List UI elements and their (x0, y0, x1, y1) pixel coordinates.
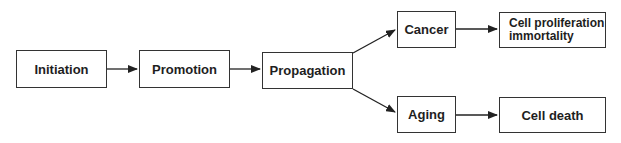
node-label: Propagation (270, 63, 346, 78)
node-cancer: Cancer (397, 11, 456, 48)
node-promotion: Promotion (139, 50, 230, 88)
node-cell-proliferation: Cell proliferation immortality (499, 12, 606, 48)
node-initiation: Initiation (16, 50, 107, 88)
node-propagation: Propagation (262, 52, 353, 89)
arrow-propagation-to-aging (353, 89, 395, 112)
node-aging: Aging (397, 96, 456, 133)
node-label: Cell proliferation immortality (509, 17, 604, 43)
node-label: Cell death (521, 108, 583, 123)
node-label: Cancer (404, 22, 448, 37)
node-label: Promotion (152, 62, 217, 77)
node-label: Initiation (34, 62, 88, 77)
arrow-propagation-to-cancer (353, 30, 395, 53)
node-label: Aging (408, 107, 445, 122)
node-cell-death: Cell death (499, 97, 606, 133)
